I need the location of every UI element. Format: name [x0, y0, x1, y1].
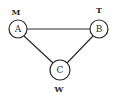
edge-b-c: [67, 36, 93, 63]
node-a: A M: [9, 7, 27, 38]
node-c-label: C: [57, 65, 64, 75]
node-c-tag: W: [54, 84, 65, 94]
node-c: C W: [50, 60, 70, 94]
node-b-label: B: [96, 24, 103, 34]
node-b-tag: T: [96, 5, 102, 15]
edge-a-c: [24, 36, 53, 63]
node-b: B T: [90, 5, 108, 38]
node-a-label: A: [14, 24, 22, 34]
node-a-tag: M: [12, 7, 21, 17]
graph-diagram: A M B T C W: [0, 0, 114, 101]
